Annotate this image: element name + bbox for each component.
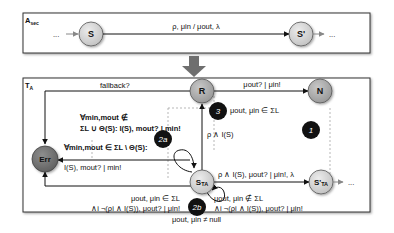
transition-label: ρ, μin / μout, λ	[172, 22, 220, 31]
svg-text:2a: 2a	[158, 135, 168, 144]
node-err[interactable]: Err	[32, 146, 58, 172]
bottom-left-label-line1: μout, μin ∈ ΣL	[131, 194, 180, 203]
sta-to-r-label: ρ ∧ I(S)	[207, 130, 234, 139]
svg-text:S: S	[88, 29, 94, 39]
bottom-right-label-line1: μout, μin ∉ ΣL	[214, 194, 263, 203]
end-ellipsis-ta: ...	[348, 178, 354, 187]
err-label-line2: I(S), mout? | min!	[64, 163, 121, 172]
loop2a-label-line1: ∀min,mout ∉	[79, 113, 128, 122]
svg-text:2b: 2b	[192, 203, 202, 212]
asec-box: Asec ... S ρ, μin / μout, λ S' ...	[23, 13, 370, 53]
bottom-center-label: μout, μin ≠ null	[172, 215, 221, 224]
svg-text:Err: Err	[39, 155, 51, 164]
svg-text:1: 1	[309, 126, 313, 135]
err-label-line1: ∀min,mout ∈ ΣL \ Θ(S):	[63, 143, 147, 152]
badge-3: 3	[209, 102, 227, 120]
end-ellipsis: ...	[329, 30, 335, 39]
svg-text:S': S'	[297, 29, 305, 39]
node-s[interactable]: S	[79, 22, 103, 46]
transform-arrow-icon	[182, 56, 206, 77]
start-ellipsis: ...	[53, 30, 59, 39]
node-s-prime[interactable]: S'	[289, 22, 313, 46]
bottom-left-label-line2: ∧i ¬(ρi ∧ I(S)), μout? | μin!	[91, 204, 180, 213]
fallback-label: fallback?	[100, 81, 130, 90]
badge-1: 1	[302, 121, 320, 139]
sta-to-sprimeta-label: ρ ∧ I(S), μout? | μin!, λ	[218, 170, 294, 179]
svg-text:N: N	[317, 86, 324, 96]
node-sprime-ta[interactable]: S'TA	[309, 170, 333, 194]
svg-text:3: 3	[216, 107, 221, 116]
node-n[interactable]: N	[308, 79, 332, 103]
badge-2a: 2a	[154, 130, 172, 148]
diagram-canvas: Asec ... S ρ, μin / μout, λ S' ... TA	[0, 0, 394, 233]
badge3-label: μout, μin ∈ ΣL	[230, 106, 279, 115]
r-to-n-label: μout? | μin!	[243, 80, 280, 89]
bottom-right-label-line2: ∧i ¬(ρi ∧ I(S)), μout? | μin!	[214, 204, 303, 213]
node-sta[interactable]: STA	[190, 170, 214, 194]
svg-text:R: R	[199, 86, 206, 96]
node-r[interactable]: R	[190, 79, 214, 103]
badge-2b: 2b	[188, 198, 206, 216]
ta-box: TA fallback? μout? | μin! ρ ∧ I(S) ρ ∧ I…	[23, 78, 370, 224]
